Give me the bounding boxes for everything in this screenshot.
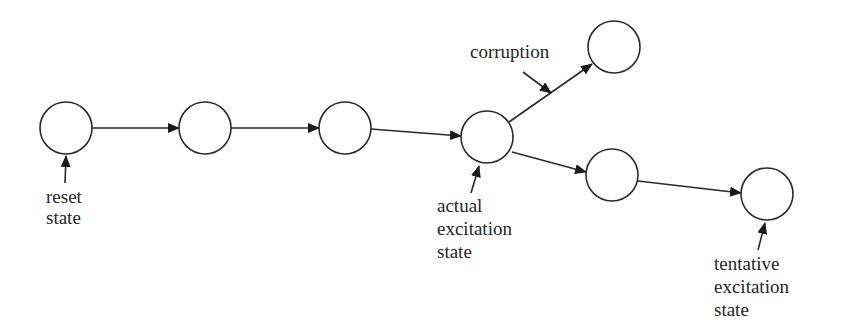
edge-n3-n4 — [371, 129, 461, 136]
tentative-label-line3: state — [714, 299, 749, 320]
corruption-label: corruption — [470, 41, 550, 62]
edge-n6-n7 — [638, 181, 741, 193]
state-node-4 — [461, 111, 513, 163]
actual-pointer-arrow — [471, 166, 479, 193]
reset-label-line1: reset — [46, 186, 83, 207]
state-node-5 — [588, 21, 640, 73]
state-node-1 — [40, 102, 92, 154]
state-node-6 — [586, 149, 638, 201]
state-node-2 — [179, 102, 231, 154]
actual-label-line2: excitation — [437, 218, 512, 239]
reset-pointer-arrow — [65, 156, 66, 183]
state-node-7 — [741, 168, 793, 220]
reset-label-line2: state — [46, 207, 81, 228]
edge-n4-n6 — [512, 152, 586, 172]
tentative-label-line2: excitation — [714, 276, 789, 297]
corruption-pointer-arrow — [523, 72, 551, 93]
tentative-label-line1: tentative — [714, 253, 779, 274]
state-diagram: reset state corruption actual excitation… — [0, 0, 842, 330]
actual-label-line3: state — [437, 241, 472, 262]
actual-label-line1: actual — [437, 195, 482, 216]
tentative-pointer-arrow — [758, 223, 765, 250]
state-node-3 — [319, 102, 371, 154]
